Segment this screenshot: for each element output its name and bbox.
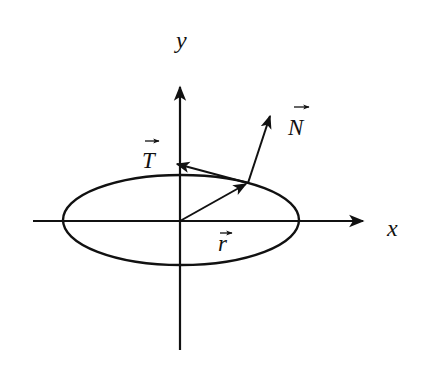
svg-text:N: N bbox=[287, 115, 305, 140]
y-axis-label: y bbox=[174, 27, 187, 53]
x-axis-label: x bbox=[386, 215, 398, 241]
normal-label: N bbox=[287, 107, 309, 140]
tangent-label: T bbox=[142, 141, 159, 173]
tangent-vector-t bbox=[177, 164, 248, 183]
svg-text:r: r bbox=[218, 231, 228, 256]
ellipse-vector-diagram: y x T N r bbox=[0, 0, 426, 374]
position-vector-r bbox=[180, 184, 246, 221]
normal-vector-n bbox=[248, 116, 270, 183]
svg-text:T: T bbox=[142, 148, 157, 173]
position-label: r bbox=[218, 231, 232, 256]
